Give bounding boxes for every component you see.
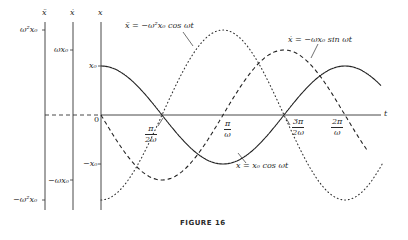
velocity-annotation: ẋ = −ωx₀ sin ωt: [288, 36, 352, 44]
figure: ẍ ẋ x ω²x₀ ωx₀ x₀ 0 −x₀ −ωx₀ −ω²x₀ t π2ω…: [0, 0, 408, 240]
t-axis-label: t: [384, 110, 387, 118]
xdot-pos-tick-label: ωx₀: [54, 46, 68, 54]
xdot-axis-label: ẋ: [70, 9, 75, 17]
t-tick-3pi-over-2w: 3π2ω: [292, 118, 304, 137]
x-pos-tick-label: x₀: [89, 62, 97, 70]
xddot-neg-tick-label: −ω²x₀: [13, 196, 37, 204]
figure-caption: FIGURE 16: [180, 219, 226, 227]
x-axis-label: x: [98, 9, 103, 17]
xdot-neg-tick-label: −ωx₀: [48, 177, 69, 185]
axis-ticks: [42, 30, 101, 200]
t-tick-pi-over-w: πω: [224, 120, 231, 139]
x-neg-tick-label: −x₀: [83, 160, 97, 168]
xddot-pos-tick-label: ω²x₀: [20, 26, 37, 34]
acceleration-annotation: ẍ = −ω²x₀ cos ωt: [125, 22, 194, 30]
position-annotation: x = x₀ cos ωt: [236, 162, 288, 170]
t-tick-pi-over-2w: π2ω: [145, 125, 157, 144]
xddot-axis-label: ẍ: [42, 9, 47, 17]
t-tick-2pi-over-w: 2πω: [331, 118, 343, 137]
origin-label: 0: [94, 116, 99, 124]
